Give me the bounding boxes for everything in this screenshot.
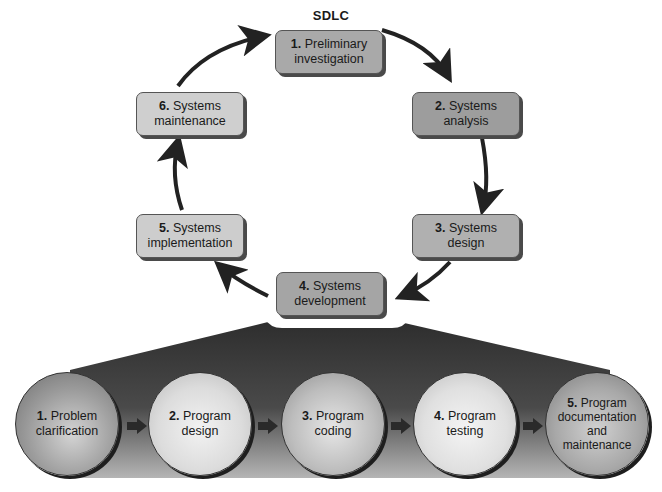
arrow-right-icon: [258, 418, 278, 434]
arrow-5-to-6: [175, 142, 182, 210]
arrow-right-icon: [391, 418, 411, 434]
sdlc-step-systems-analysis: 2. Systemsanalysis: [412, 92, 520, 136]
program-step-program-design: 2. Programdesign: [148, 372, 252, 476]
sdlc-step-systems-implementation: 5. Systemsimplementation: [136, 214, 244, 258]
program-step-documentation-and-maintenance: 5. Programdocumentationandmaintenance: [545, 372, 649, 476]
arrow-1-to-2: [382, 30, 448, 76]
arrow-3-to-4: [402, 262, 450, 296]
sdlc-step-systems-design: 3. Systemsdesign: [412, 214, 520, 258]
program-step-program-coding: 3. Programcoding: [281, 372, 385, 476]
arrow-right-icon: [523, 418, 543, 434]
sdlc-step-preliminary-investigation: 1. Preliminaryinvestigation: [275, 30, 383, 74]
arrow-right-icon: [127, 418, 147, 434]
program-step-program-testing: 4. Programtesting: [413, 372, 517, 476]
sdlc-step-systems-maintenance: 6. Systemsmaintenance: [136, 92, 244, 136]
sdlc-step-systems-development: 4. Systemsdevelopment: [276, 272, 384, 316]
arrow-2-to-3: [482, 138, 486, 208]
program-step-problem-clarification: 1. Problemclarification: [15, 372, 119, 476]
arrow-4-to-5: [220, 266, 268, 296]
arrow-6-to-1: [178, 36, 264, 86]
